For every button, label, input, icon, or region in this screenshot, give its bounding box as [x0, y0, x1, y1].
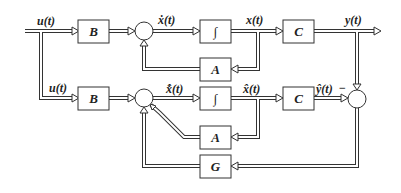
- svg-text:A: A: [210, 62, 220, 77]
- label-minus-sign: −: [339, 81, 346, 95]
- label-xhat: x̂(t): [242, 82, 260, 96]
- svg-text:A: A: [210, 130, 220, 145]
- label-xdot: ẋ(t): [157, 13, 175, 27]
- block-c-top: C: [283, 20, 314, 43]
- summing-junction-error: [348, 90, 366, 108]
- label-x: x(t): [245, 13, 263, 27]
- block-c-bottom: C: [283, 87, 314, 110]
- block-diagram: B ∫ C A B ∫ C A G u(t) ẋ(t) x(t) y(t) u(…: [0, 0, 401, 193]
- block-a-top: A: [200, 58, 231, 81]
- block-b-bottom: B: [78, 87, 109, 110]
- block-a-bottom: A: [200, 126, 231, 149]
- label-u-bottom: u(t): [49, 81, 67, 95]
- label-y: y(t): [343, 13, 362, 27]
- summing-junction-top: [135, 22, 153, 40]
- block-integrator-top: ∫: [200, 20, 231, 43]
- svg-text:C: C: [294, 24, 303, 39]
- svg-text:B: B: [88, 24, 98, 39]
- svg-text:G: G: [211, 159, 221, 174]
- svg-text:C: C: [294, 91, 303, 106]
- block-g: G: [200, 155, 231, 178]
- summing-junction-bottom: [135, 89, 153, 107]
- block-b-top: B: [78, 20, 109, 43]
- label-xhatdot: x̂̇(t): [165, 82, 183, 96]
- svg-text:B: B: [88, 91, 98, 106]
- label-u-top: u(t): [37, 14, 55, 28]
- block-integrator-bottom: ∫: [200, 87, 231, 110]
- label-yhat: ŷ(t): [314, 82, 333, 96]
